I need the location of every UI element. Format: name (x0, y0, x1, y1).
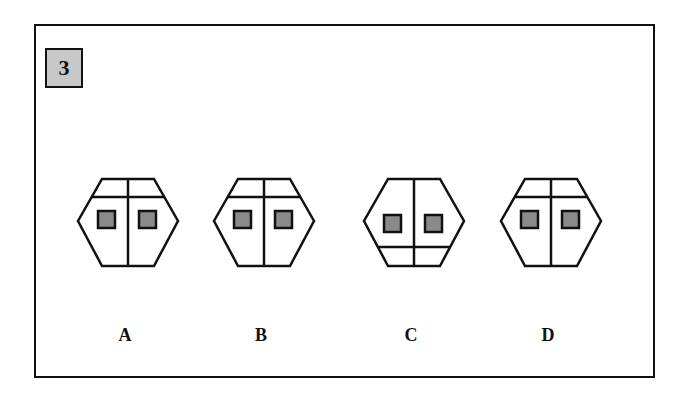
right-square-icon (425, 215, 442, 232)
right-square-icon (562, 211, 579, 228)
option-label-a[interactable]: A (110, 325, 140, 346)
left-square-icon (384, 215, 401, 232)
right-square-icon (275, 211, 292, 228)
option-label-d[interactable]: D (533, 325, 563, 346)
answer-figures (0, 0, 684, 393)
option-label-c[interactable]: C (396, 325, 426, 346)
option-label-b[interactable]: B (246, 325, 276, 346)
left-square-icon (234, 211, 251, 228)
left-square-icon (98, 211, 115, 228)
option-figure-c[interactable] (364, 179, 464, 266)
left-square-icon (521, 211, 538, 228)
option-figure-d[interactable] (501, 179, 601, 266)
option-figure-a[interactable] (78, 179, 178, 266)
option-figure-b[interactable] (214, 179, 314, 266)
right-square-icon (139, 211, 156, 228)
